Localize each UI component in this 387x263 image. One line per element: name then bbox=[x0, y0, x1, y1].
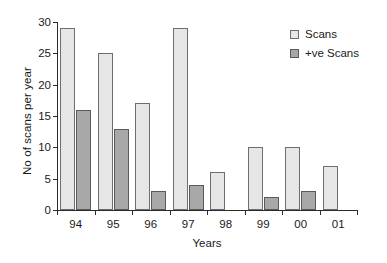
y-tick-label: 20 bbox=[38, 79, 51, 91]
x-tick bbox=[57, 210, 58, 215]
y-tick-label: 15 bbox=[38, 110, 51, 122]
legend-item-scans: Scans bbox=[290, 26, 359, 42]
x-tick bbox=[95, 210, 96, 215]
x-tick-label: 97 bbox=[182, 218, 195, 230]
bar bbox=[285, 147, 300, 210]
x-tick-label: 94 bbox=[69, 218, 82, 230]
x-tick-label: 98 bbox=[219, 218, 232, 230]
y-tick bbox=[53, 22, 57, 23]
x-tick bbox=[320, 210, 321, 215]
legend-swatch-positive-scans-icon bbox=[290, 49, 299, 58]
bar bbox=[135, 103, 150, 210]
y-tick bbox=[53, 116, 57, 117]
bar bbox=[248, 147, 263, 210]
x-tick-label: 00 bbox=[294, 218, 307, 230]
bar bbox=[210, 172, 225, 210]
bar bbox=[98, 53, 113, 210]
bar bbox=[173, 28, 188, 210]
chart-legend: Scans +ve Scans bbox=[290, 26, 359, 64]
y-tick bbox=[53, 179, 57, 180]
y-axis-line bbox=[57, 22, 58, 210]
x-tick bbox=[357, 210, 358, 215]
bar-chart: No of scans per year 051015202530 949596… bbox=[0, 0, 387, 263]
bar bbox=[60, 28, 75, 210]
bar bbox=[76, 110, 91, 210]
y-tick-label: 25 bbox=[38, 47, 51, 59]
bar bbox=[301, 191, 316, 210]
y-tick-label: 30 bbox=[38, 16, 51, 28]
x-tick-label: 96 bbox=[144, 218, 157, 230]
legend-swatch-scans-icon bbox=[290, 30, 299, 39]
x-tick bbox=[245, 210, 246, 215]
y-tick-label: 10 bbox=[38, 141, 51, 153]
y-tick bbox=[53, 85, 57, 86]
legend-item-positive-scans: +ve Scans bbox=[290, 45, 359, 61]
y-tick-label: 5 bbox=[45, 173, 51, 185]
x-axis-title: Years bbox=[57, 237, 357, 249]
bar bbox=[151, 191, 166, 210]
y-tick bbox=[53, 147, 57, 148]
bar bbox=[114, 129, 129, 210]
y-tick bbox=[53, 53, 57, 54]
y-axis-title: No of scans per year bbox=[21, 41, 33, 201]
y-tick-label: 0 bbox=[45, 204, 51, 216]
x-tick bbox=[132, 210, 133, 215]
x-tick-label: 01 bbox=[332, 218, 345, 230]
x-tick bbox=[170, 210, 171, 215]
x-tick-label: 95 bbox=[107, 218, 120, 230]
x-tick-label: 99 bbox=[257, 218, 270, 230]
legend-label-scans: Scans bbox=[305, 28, 337, 40]
x-tick bbox=[282, 210, 283, 215]
legend-label-positive-scans: +ve Scans bbox=[305, 47, 359, 59]
bar bbox=[264, 197, 279, 210]
bar bbox=[189, 185, 204, 210]
bar bbox=[323, 166, 338, 210]
x-tick bbox=[207, 210, 208, 215]
